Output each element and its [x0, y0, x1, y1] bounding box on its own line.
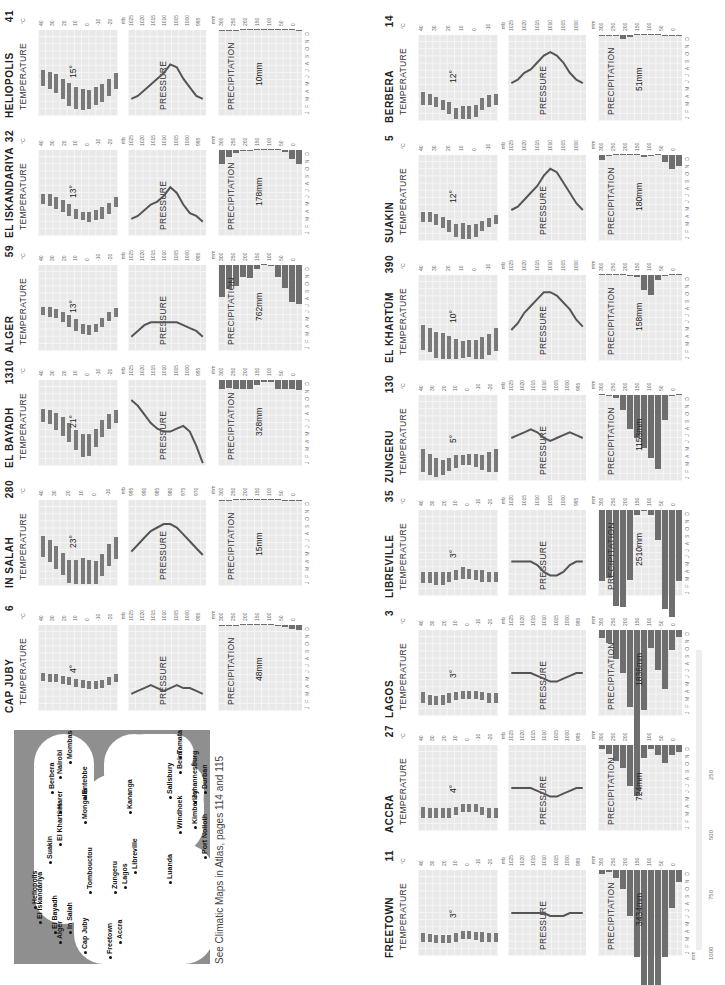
pressure-grid: PRESSURE	[128, 500, 206, 586]
precipitation-bar	[662, 395, 668, 420]
pressure-grid: PRESSURE	[508, 745, 586, 831]
precip-axis: 300250200150100500	[218, 128, 302, 146]
temperature-bar	[81, 680, 85, 688]
temperature-bar	[454, 692, 458, 701]
precipitation-bar	[247, 150, 253, 151]
month-label: O	[684, 412, 690, 416]
pressure-unit: mb	[120, 367, 126, 374]
month-label: D	[684, 632, 690, 636]
month-label: J	[684, 357, 690, 360]
axis-tick: 1015	[150, 135, 156, 146]
temperature-bar	[114, 73, 118, 89]
temp-axis: 403020100-10-20	[38, 603, 118, 621]
axis-tick: 20	[445, 265, 451, 271]
temperature-bar	[41, 70, 45, 86]
month-labels: JFMAMJJASOND	[684, 510, 690, 596]
axis-tick: 250	[230, 368, 236, 376]
axis-tick: 250	[610, 143, 616, 151]
precipitation-bar	[254, 499, 260, 500]
axis-tick: 995	[195, 18, 201, 26]
precipitation-bar	[268, 265, 274, 266]
temperature-label: TEMPERATURE	[398, 168, 408, 235]
axis-tick: 10	[72, 615, 78, 621]
precipitation-bar	[226, 150, 232, 157]
temp-axis: 403020100-10	[38, 478, 118, 496]
axis-tick: 1025	[508, 855, 514, 866]
month-label: J	[304, 75, 310, 78]
precipitation-bar	[240, 380, 246, 389]
precipitation-bar	[648, 870, 654, 985]
axis-tick: -10	[485, 264, 491, 271]
month-label: A	[684, 187, 690, 190]
precipitation-bar	[226, 30, 232, 31]
station-name: LAGOS	[384, 680, 395, 718]
precipitation-bar	[226, 500, 232, 501]
temperature-bar	[114, 308, 118, 317]
month-label: J	[304, 582, 310, 585]
month-label: F	[684, 110, 690, 113]
temp-axis: 403020100-10-20	[38, 8, 118, 26]
station-chart: IN SALAH280TEMPERATURE°C23°403020100-10m…	[0, 478, 330, 590]
temperature-bar	[467, 340, 471, 357]
pressure-line	[508, 395, 586, 481]
temperature-bar	[94, 87, 98, 104]
month-label: S	[304, 55, 310, 58]
month-label: D	[304, 152, 310, 156]
pressure-grid: PRESSURE	[508, 35, 586, 121]
precipitation-label: PRECIPITATION	[226, 162, 236, 230]
pressure-grid: PRESSURE	[128, 625, 206, 711]
axis-tick: 200	[242, 253, 248, 261]
temperature-grid: 10°	[418, 275, 498, 361]
precip-axis: 300250200150100500	[598, 13, 682, 31]
precipitation-bar	[268, 499, 274, 500]
axis-tick: -20	[107, 19, 113, 26]
precipitation-label: PRECIPITATION	[606, 642, 616, 710]
temperature-bar	[94, 682, 98, 690]
precipitation-label: PRECIPITATION	[606, 167, 616, 235]
month-label: A	[684, 307, 690, 310]
precipitation-bar	[296, 150, 302, 164]
axis-tick: 100	[646, 383, 652, 391]
axis-tick: 200	[622, 143, 628, 151]
axis-tick: 1025	[508, 380, 514, 391]
axis-tick: 1025	[128, 15, 134, 26]
axis-tick: 150	[634, 498, 640, 506]
axis-tick: 0	[290, 258, 296, 261]
temperature-bar	[421, 92, 425, 105]
temp-range-label: 4°	[68, 665, 78, 673]
temperature-label: TEMPERATURE	[398, 523, 408, 590]
axis-tick: 50	[658, 735, 664, 741]
pressure-unit: mb	[500, 22, 506, 29]
map-city-label: Heliopolis	[31, 871, 38, 909]
pressure-grid: PRESSURE	[508, 510, 586, 596]
axis-tick: 50	[658, 145, 664, 151]
temp-axis: 403020100-10-20	[418, 848, 498, 866]
month-label: O	[684, 52, 690, 56]
axis-tick: 20	[65, 490, 71, 496]
precipitation-bar	[599, 630, 605, 638]
precip-total: 15mm	[254, 532, 264, 556]
precipitation-bar	[676, 155, 682, 166]
precipitation-bar	[613, 274, 619, 275]
temp-unit: °C	[20, 18, 26, 24]
temperature-bar	[81, 558, 85, 584]
precipitation-bar	[240, 29, 246, 30]
temp-range-label: 5°	[448, 435, 458, 443]
month-label: S	[304, 525, 310, 528]
precipitation-bar	[219, 30, 225, 31]
temperature-grid: 15°	[38, 30, 118, 116]
axis-tick: 40	[418, 265, 424, 271]
precipitation-bar	[289, 265, 295, 302]
axis-tick: 20	[441, 620, 447, 626]
temperature-bar	[67, 83, 71, 106]
pressure-unit: mb	[120, 137, 126, 144]
station-name: SUAKIN	[384, 202, 395, 243]
month-label: M	[684, 207, 690, 211]
temperature-bar	[54, 309, 58, 318]
station-title: CAP JUBY6	[4, 605, 15, 713]
axis-tick: 10	[458, 25, 464, 31]
pressure-line	[508, 870, 586, 956]
precipitation-label: PRECIPITATION	[606, 287, 616, 355]
axis-tick: 300	[598, 733, 604, 741]
month-label: A	[304, 560, 310, 563]
